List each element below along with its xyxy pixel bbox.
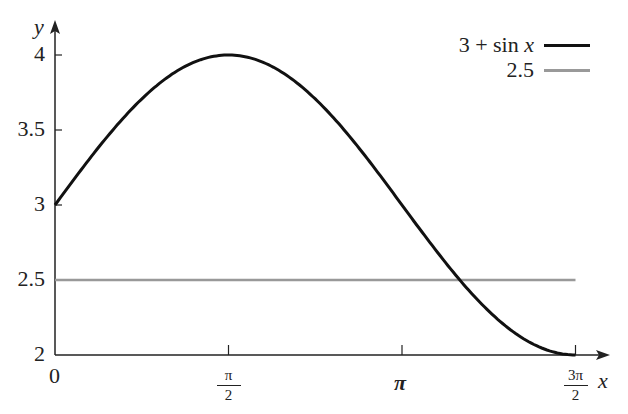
legend-label: 3 + sin x (459, 32, 534, 58)
legend-swatch (544, 69, 590, 72)
y-tick-label: 3 (34, 193, 45, 215)
legend-label: 2.5 (507, 57, 535, 83)
legend-swatch (544, 44, 590, 47)
series-line-3-plus-sin-x (55, 55, 576, 355)
y-tick-label: 2 (34, 343, 45, 365)
x-axis-label: x (598, 370, 608, 392)
x-tick-label: π (394, 372, 406, 394)
legend-item-const: 2.5 (507, 57, 591, 83)
y-axis-label: y (34, 16, 44, 38)
x-tick-label: 3π2 (564, 368, 588, 403)
y-tick-label: 2.5 (18, 268, 46, 290)
y-tick-label: 4 (34, 43, 45, 65)
x-tick-label: π2 (217, 368, 241, 403)
legend-item-sin: 3 + sin x (459, 32, 590, 58)
y-tick-label: 3.5 (18, 118, 46, 140)
x-tick-label: 0 (49, 365, 60, 387)
